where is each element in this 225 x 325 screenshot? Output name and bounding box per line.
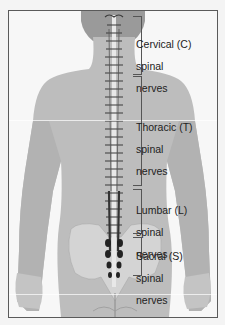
diagram-frame: Cervical (C) spinal nerves Thoracic (T) … bbox=[8, 10, 218, 318]
label-line: spinal bbox=[136, 61, 191, 72]
label-line: nerves bbox=[136, 295, 183, 306]
cervical-label: Cervical (C) spinal nerves bbox=[136, 28, 191, 105]
sacral-label: Sacral (S) spinal nerves bbox=[136, 240, 183, 317]
label-line: Sacral (S) bbox=[136, 251, 183, 262]
spinal-cord bbox=[112, 15, 116, 287]
label-line: spinal bbox=[136, 227, 187, 238]
label-line: spinal bbox=[136, 144, 193, 155]
label-line: nerves bbox=[136, 83, 191, 94]
label-line: Cervical (C) bbox=[136, 39, 191, 50]
right-hand bbox=[183, 273, 210, 309]
label-line: Thoracic (T) bbox=[136, 122, 193, 133]
label-line: spinal bbox=[136, 273, 183, 284]
label-line: nerves bbox=[136, 166, 193, 177]
scan-line bbox=[9, 294, 217, 295]
left-hand bbox=[15, 273, 42, 309]
label-line: Lumbar (L) bbox=[136, 205, 187, 216]
thoracic-label: Thoracic (T) spinal nerves bbox=[136, 111, 193, 188]
